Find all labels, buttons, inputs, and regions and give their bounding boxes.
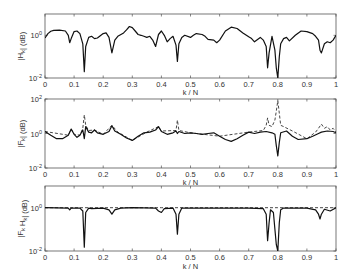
x-tick-label: 0.9 bbox=[302, 80, 312, 89]
x-tick-label: 0 bbox=[43, 253, 47, 262]
x-tick-label: 0.6 bbox=[214, 253, 224, 262]
subplot-3: 00.10.20.30.40.50.60.70.80.9110010-2k / … bbox=[16, 186, 338, 271]
x-tick-label: 1 bbox=[334, 170, 338, 179]
x-axis-label: k / N bbox=[183, 262, 198, 271]
x-tick-label: 0.8 bbox=[273, 80, 283, 89]
x-tick-label: 0.7 bbox=[243, 170, 253, 179]
x-tick-label: 0.1 bbox=[69, 170, 79, 179]
x-axis-label: k / N bbox=[183, 88, 198, 97]
x-tick-label: 0.6 bbox=[214, 170, 224, 179]
subplot-1: 00.10.20.30.40.50.60.70.80.9110010-2k / … bbox=[16, 14, 338, 97]
x-tick-label: 0.2 bbox=[98, 253, 108, 262]
y-tick-label: 10-2 bbox=[29, 246, 42, 256]
y-axis-label: |Fk| (dB) bbox=[16, 119, 27, 147]
x-tick-label: 0.3 bbox=[127, 170, 137, 179]
x-tick-label: 1 bbox=[334, 80, 338, 89]
x-tick-label: 0.5 bbox=[185, 253, 195, 262]
x-tick-label: 0.8 bbox=[273, 170, 283, 179]
y-tick-label: 100 bbox=[31, 129, 42, 139]
chart-figure: 00.10.20.30.40.50.60.70.80.9110010-2k / … bbox=[0, 0, 350, 279]
x-tick-label: 0.9 bbox=[302, 253, 312, 262]
x-tick-label: 0.7 bbox=[243, 80, 253, 89]
x-tick-label: 0.1 bbox=[69, 80, 79, 89]
series-line-f-k-h-k bbox=[45, 208, 336, 251]
x-tick-label: 0.3 bbox=[127, 80, 137, 89]
x-tick-label: 0.4 bbox=[156, 253, 166, 262]
series-line-h-k bbox=[45, 27, 336, 79]
plot-frame bbox=[45, 14, 336, 78]
subplot-2: 00.10.20.30.40.50.60.70.80.9110210010-2k… bbox=[16, 94, 338, 187]
y-tick-label: 102 bbox=[31, 94, 42, 104]
x-tick-label: 0.6 bbox=[214, 80, 224, 89]
y-axis-label: |Fk Hk| (dB) bbox=[16, 199, 29, 237]
y-axis-label: |Hk| (dB) bbox=[16, 31, 27, 60]
x-tick-label: 0 bbox=[43, 170, 47, 179]
x-tick-label: 0.8 bbox=[273, 253, 283, 262]
x-tick-label: 1 bbox=[334, 253, 338, 262]
series-line-f-k bbox=[45, 126, 336, 156]
x-tick-label: 0.9 bbox=[302, 170, 312, 179]
y-tick-label: 10-2 bbox=[29, 73, 42, 83]
y-tick-label: 100 bbox=[31, 30, 42, 40]
x-tick-label: 0.4 bbox=[156, 80, 166, 89]
x-tick-label: 0.7 bbox=[243, 253, 253, 262]
x-tick-label: 0.3 bbox=[127, 253, 137, 262]
y-tick-label: 10-2 bbox=[29, 163, 42, 173]
x-tick-label: 0.1 bbox=[69, 253, 79, 262]
x-tick-label: 0.2 bbox=[98, 170, 108, 179]
plot-frame bbox=[45, 186, 336, 251]
series-line-f-k-alt bbox=[45, 101, 336, 141]
x-tick-label: 0.2 bbox=[98, 80, 108, 89]
x-tick-label: 0.4 bbox=[156, 170, 166, 179]
plot-frame bbox=[45, 99, 336, 168]
x-tick-label: 0 bbox=[43, 80, 47, 89]
y-tick-label: 100 bbox=[31, 203, 42, 213]
